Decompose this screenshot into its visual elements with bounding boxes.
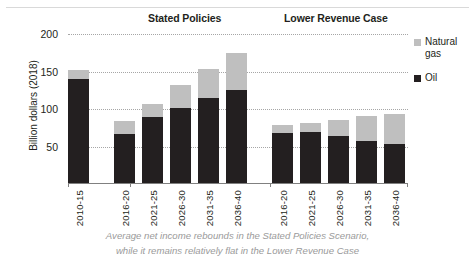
bar-segment-oil xyxy=(300,132,321,183)
x-axis-line xyxy=(68,183,408,184)
caption-line-1: Average net income rebounds in the State… xyxy=(0,228,475,243)
legend-swatch-natural-gas-icon xyxy=(414,39,421,46)
legend-label-oil: Oil xyxy=(425,72,437,84)
bar-segment-natural-gas xyxy=(328,120,349,136)
group-title-lower-revenue-case: Lower Revenue Case xyxy=(284,12,388,24)
bar-segment-oil xyxy=(68,79,89,183)
legend-item-oil: Oil xyxy=(414,72,474,84)
x-tick-label-8: 2026-30 xyxy=(334,190,345,226)
x-axis-tick-end xyxy=(407,183,408,187)
figure-caption: Average net income rebounds in the State… xyxy=(0,228,475,258)
bar-segment-oil xyxy=(226,90,247,183)
bar-segment-oil xyxy=(142,117,163,183)
bar-segment-natural-gas xyxy=(68,70,89,79)
bar-segment-oil xyxy=(384,144,405,183)
bar-2021-25-stated xyxy=(142,104,163,183)
bar-2031-35-lower xyxy=(356,116,377,183)
y-tick-100: 100 xyxy=(20,103,58,115)
bar-segment-natural-gas xyxy=(198,69,219,98)
bar-segment-oil xyxy=(114,134,135,183)
bar-segment-oil xyxy=(198,98,219,183)
bar-segment-natural-gas xyxy=(226,53,247,90)
bar-2026-30-lower xyxy=(328,120,349,183)
x-axis-tick-start xyxy=(68,183,69,187)
x-tick-label-6: 2016-20 xyxy=(278,190,289,226)
caption-line-2: while it remains relatively flat in the … xyxy=(0,243,475,258)
bar-segment-natural-gas xyxy=(114,121,135,134)
bar-2021-25-lower xyxy=(300,123,321,183)
x-tick-label-7: 2021-25 xyxy=(306,190,317,226)
x-tick-label-5: 2036-40 xyxy=(232,190,243,226)
legend-item-natural-gas: Natural gas xyxy=(414,36,474,60)
x-tick-label-4: 2031-35 xyxy=(204,190,215,226)
x-tick-label-10: 2036-40 xyxy=(390,190,401,226)
gridline-200 xyxy=(68,34,408,35)
bar-segment-oil xyxy=(356,141,377,183)
bar-2016-20-lower xyxy=(272,125,293,183)
bar-segment-oil xyxy=(170,108,191,183)
plot-area xyxy=(68,26,408,183)
y-tick-200: 200 xyxy=(20,28,58,40)
top-divider xyxy=(6,7,469,8)
bar-2010-15-historical xyxy=(68,70,89,183)
legend-swatch-oil-icon xyxy=(414,75,421,82)
x-tick-label-3: 2026-30 xyxy=(176,190,187,226)
y-axis-tick-labels: 200 150 100 50 xyxy=(20,26,58,183)
y-tick-50: 50 xyxy=(20,141,58,153)
bar-segment-oil xyxy=(328,136,349,183)
bar-segment-natural-gas xyxy=(356,116,377,141)
x-axis-tick-historical-end xyxy=(130,183,131,187)
x-tick-label-1: 2016-20 xyxy=(120,190,131,226)
legend-label-natural-gas: Natural gas xyxy=(425,36,474,60)
x-tick-label-2: 2021-25 xyxy=(148,190,159,226)
bar-segment-natural-gas xyxy=(272,125,293,133)
bar-segment-natural-gas xyxy=(300,123,321,132)
group-title-stated-policies: Stated Policies xyxy=(148,12,221,24)
bar-segment-natural-gas xyxy=(384,114,405,144)
chart-figure: Stated Policies Lower Revenue Case Billi… xyxy=(0,0,475,267)
x-tick-label-9: 2031-35 xyxy=(362,190,373,226)
bar-2036-40-lower xyxy=(384,114,405,183)
x-tick-label-0: 2010-15 xyxy=(74,190,85,226)
bar-2016-20-stated xyxy=(114,121,135,183)
bar-segment-natural-gas xyxy=(142,104,163,117)
x-axis-tick-stated-end xyxy=(270,183,271,187)
chart-legend: Natural gas Oil xyxy=(414,36,474,96)
y-tick-150: 150 xyxy=(20,66,58,78)
bar-2031-35-stated xyxy=(198,69,219,183)
bar-segment-natural-gas xyxy=(170,85,191,107)
bar-segment-oil xyxy=(272,133,293,183)
bar-2026-30-stated xyxy=(170,85,191,183)
bar-2036-40-stated xyxy=(226,53,247,183)
